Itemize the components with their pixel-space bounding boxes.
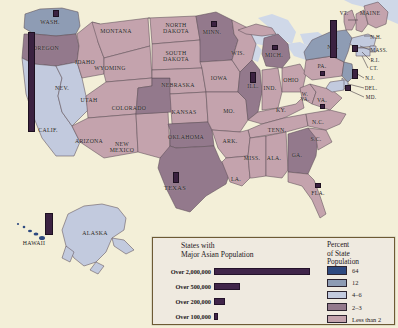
bar-legend-row-swatch bbox=[214, 298, 225, 305]
bar-legend-title-line2: Major Asian Population bbox=[181, 251, 254, 260]
percent-legend-item: Less than 2 bbox=[327, 315, 381, 324]
state-missouri bbox=[206, 92, 248, 132]
bar-minnesota bbox=[211, 21, 217, 27]
percent-legend-swatch bbox=[327, 315, 347, 323]
bar-legend-row: Over 100,000 bbox=[153, 312, 218, 320]
bar-legend-row-label: Over 2,000,000 bbox=[153, 268, 214, 275]
bar-california bbox=[28, 32, 35, 132]
percent-legend-item: 64 bbox=[327, 266, 358, 275]
percent-legend-swatch bbox=[327, 266, 347, 274]
bar-maryland bbox=[345, 85, 351, 91]
percent-legend-item: 4–6 bbox=[327, 290, 362, 299]
state-north-dakota bbox=[148, 16, 200, 44]
bar-legend-title: States with Major Asian Population bbox=[181, 242, 254, 260]
percent-legend-swatch bbox=[327, 291, 347, 299]
bar-legend-row-label: Over 500,000 bbox=[153, 283, 214, 290]
percent-legend: Percent of State Population 64124–62–3Le… bbox=[321, 238, 394, 324]
bar-legend-row: Over 500,000 bbox=[153, 282, 240, 290]
percent-legend-swatch bbox=[327, 303, 347, 311]
bar-texas bbox=[173, 172, 179, 183]
bar-legend-row-swatch bbox=[214, 313, 218, 320]
bar-legend-row-swatch bbox=[214, 283, 240, 290]
percent-legend-label: 12 bbox=[352, 279, 358, 286]
percent-legend-label: 64 bbox=[352, 267, 358, 274]
bar-illinois bbox=[250, 72, 256, 83]
legend-panel: States with Major Asian Population Over … bbox=[152, 237, 395, 325]
percent-legend-label: 4–6 bbox=[352, 291, 362, 298]
bar-legend: States with Major Asian Population Over … bbox=[153, 238, 321, 324]
bar-hawaii bbox=[45, 213, 53, 235]
percent-legend-label: Less than 2 bbox=[352, 316, 381, 323]
state-new-mexico bbox=[136, 112, 170, 158]
bar-michigan bbox=[272, 45, 278, 50]
bar-legend-row: Over 200,000 bbox=[153, 297, 225, 305]
bar-virginia bbox=[320, 104, 325, 109]
bar-new-york bbox=[330, 20, 337, 58]
bar-legend-row: Over 2,000,000 bbox=[153, 267, 310, 275]
percent-legend-item: 2–3 bbox=[327, 303, 362, 312]
state-indiana bbox=[262, 68, 282, 110]
percent-legend-swatch bbox=[327, 279, 347, 287]
state-kansas bbox=[170, 92, 208, 124]
percent-legend-item: 12 bbox=[327, 278, 358, 287]
percent-legend-title: Percent of State Population bbox=[327, 241, 359, 267]
state-south-dakota bbox=[152, 40, 202, 70]
bar-massachu bbox=[352, 45, 358, 52]
bar-legend-row-label: Over 200,000 bbox=[153, 298, 214, 305]
bar-pennsylvania bbox=[320, 71, 325, 76]
bar-legend-row-label: Over 100,000 bbox=[153, 313, 214, 320]
bar-washington bbox=[53, 10, 59, 17]
bar-legend-row-swatch bbox=[214, 268, 310, 275]
bar-new-jersey bbox=[352, 69, 358, 79]
bar-florida bbox=[315, 183, 321, 188]
map-container: .s64 { fill:#2e4a80; } .s12 { fill:#8e9c… bbox=[0, 0, 398, 328]
state-oklahoma bbox=[168, 122, 214, 148]
state-mississippi bbox=[248, 136, 266, 178]
state-rhode-island bbox=[370, 46, 376, 52]
state-alabama bbox=[266, 132, 288, 178]
state-iowa bbox=[200, 60, 240, 92]
percent-legend-label: 2–3 bbox=[352, 304, 362, 311]
